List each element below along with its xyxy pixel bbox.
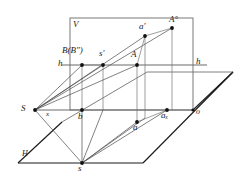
connector-aprime-Acirc [145, 28, 172, 36]
vertical-projectors [82, 28, 172, 122]
label-point-a-prime: a′ [139, 22, 145, 31]
label-point-a: a [133, 123, 138, 132]
point-a-prime [143, 34, 147, 38]
label-point-S: S [21, 104, 26, 113]
ray-S-s [35, 110, 82, 163]
label-horizon-left: h [58, 59, 63, 68]
label-point-s: s [78, 164, 82, 173]
label-point-s-prime: s′ [99, 49, 104, 58]
plan-connectors [82, 28, 172, 122]
picture-plane-rect [70, 18, 193, 110]
label-ground-plane-H: H [22, 150, 28, 158]
label-ground-line-x: x [46, 111, 49, 118]
label-point-A-circ: A° [169, 15, 178, 24]
label-picture-plane-V: V [73, 20, 79, 29]
label-point-b: b [78, 112, 83, 121]
point-A [135, 63, 139, 67]
rays-from-s [82, 110, 167, 163]
ray-S-A [35, 65, 137, 110]
label-horizon-right: h [196, 57, 201, 66]
label-point-B-group: B(B″) [62, 46, 83, 55]
ground-plane-outline [18, 72, 233, 163]
point-B [80, 63, 84, 67]
point-S [33, 108, 37, 112]
label-point-A: A [131, 50, 137, 59]
label-point-a-x: aₓ [161, 111, 168, 120]
ray-s-ax [82, 110, 167, 163]
ray-S-B [35, 65, 82, 110]
geometry-drawing [0, 0, 240, 193]
point-s-prime [101, 63, 105, 67]
point-o [191, 108, 194, 111]
figure-canvas: V H h h x o S B(B″) s′ A a′ A° b a aₓ s [0, 0, 240, 193]
point-A-circ [170, 26, 174, 30]
label-origin-o: o [196, 108, 200, 116]
ray-S-aprime [35, 36, 145, 110]
